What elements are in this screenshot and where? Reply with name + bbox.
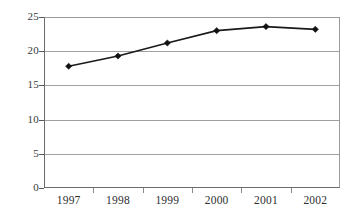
data-point-marker — [66, 63, 72, 69]
data-point-marker — [214, 28, 220, 34]
data-point-marker — [164, 40, 170, 46]
series-layer — [0, 0, 355, 217]
series-line — [69, 27, 316, 67]
data-point-marker — [263, 23, 269, 29]
series-markers — [66, 23, 319, 69]
line-chart: 0510152025 199719981999200020012002 — [0, 0, 355, 217]
data-point-marker — [115, 53, 121, 59]
data-point-marker — [312, 26, 318, 32]
